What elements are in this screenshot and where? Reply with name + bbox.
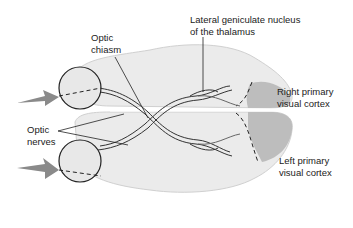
left-cortex-label: Left primary visual cortex [279,155,332,179]
optic-chiasm-label: Optic chiasm [91,32,121,56]
optic-nerves-label: Optic nerves [27,124,56,148]
lgn-label: Lateral geniculate nucleus of the thalam… [190,14,300,38]
right-cortex-label: Right primary visual cortex [277,86,334,110]
arrow-top-icon [17,90,59,106]
bottom-eye [59,140,101,182]
arrow-bottom-icon [17,158,59,179]
top-eye [59,67,101,109]
